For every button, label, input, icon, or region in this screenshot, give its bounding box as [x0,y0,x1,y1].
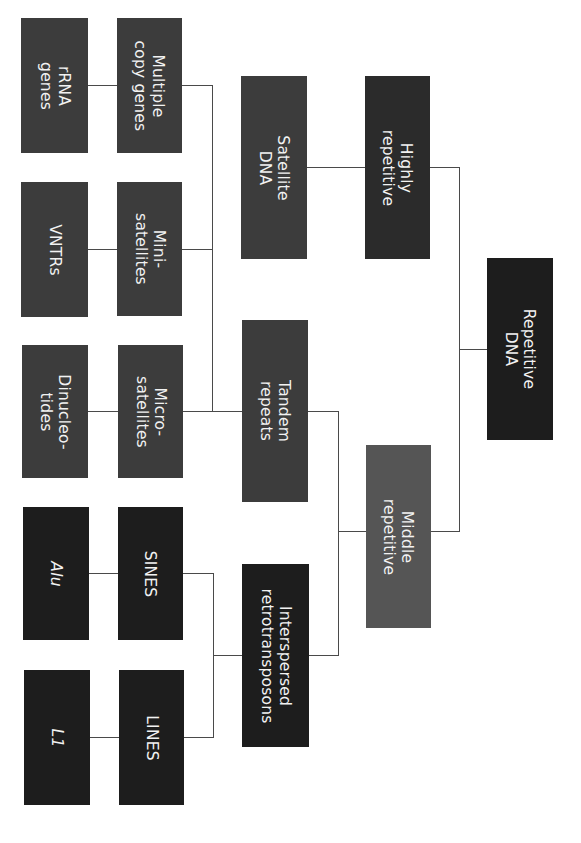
connector-microsatellites [183,411,212,412]
node-label: Alu [47,561,65,586]
node-label: SINES [141,550,159,597]
node-label: Repetitive DNA [502,309,538,389]
node-label: Interspersed retrotransposons [258,588,294,723]
node-vntrs: VNTRs [21,182,88,317]
node-label: LINES [143,715,161,760]
connector-tandem-out [212,411,242,412]
node-label: rRNA genes [37,62,73,110]
connector-multiple-copy [182,85,212,86]
node-label: Tandem repeats [257,380,293,442]
node-satellite-dna: Satellite DNA [241,76,307,259]
connector-level1-trunk [459,167,460,532]
connector-minisatellites [182,249,212,250]
connector-level2-trunk [338,411,339,656]
node-label: Multiple copy genes [132,40,168,131]
connector-rrna [88,85,117,86]
node-label: Highly repetitive [380,129,416,205]
node-lines: LINES [119,670,184,805]
node-label: L1 [48,728,66,747]
node-rrna-genes: rRNA genes [21,18,88,153]
connector-sines [183,573,213,574]
connector-interspersed [309,655,338,656]
node-label: Mini- satellites [132,213,168,285]
connector-vntrs [88,249,117,250]
node-label: Middle repetitive [381,498,417,574]
connector-l1 [90,737,119,738]
connector-middle [431,531,459,532]
connector-tandem [308,411,338,412]
node-l1: L1 [24,670,90,805]
node-tandem-repeats: Tandem repeats [242,320,308,502]
connector-alu [89,573,118,574]
node-repetitive-dna: Repetitive DNA [487,258,553,440]
node-label: Dinucleo- tides [37,374,73,449]
node-multiple-copy-genes: Multiple copy genes [117,18,182,153]
connector-root [459,349,487,350]
node-interspersed-retrotransposons: Interspersed retrotransposons [242,564,309,747]
connector-satellite [307,167,365,168]
connector-interspersed-trunk [213,573,214,738]
node-middle-repetitive: Middle repetitive [366,445,431,628]
connector-highly [430,167,459,168]
node-label: VNTRs [45,224,63,276]
node-label: Satellite DNA [256,135,292,200]
node-alu: Alu [23,507,89,640]
node-label: Micro- satellites [133,376,169,448]
connector-dinucleotides [88,411,118,412]
node-highly-repetitive: Highly repetitive [365,76,430,259]
node-microsatellites: Micro- satellites [118,345,183,478]
connector-middle-out [338,531,366,532]
node-sines: SINES [118,507,183,640]
node-minisatellites: Mini- satellites [117,182,182,316]
connector-tandem-trunk [212,85,213,412]
connector-interspersed-out [213,655,242,656]
node-dinucleotides: Dinucleo- tides [22,345,88,478]
connector-lines [184,737,213,738]
